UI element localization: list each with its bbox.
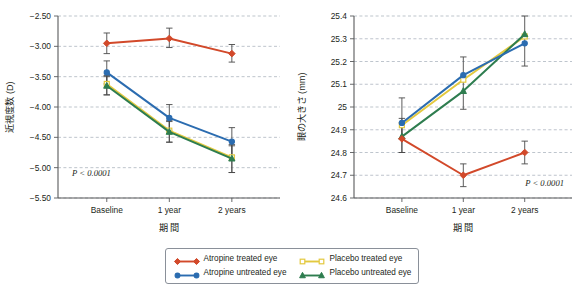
data-point-atropine_treated-legend-b [193,258,199,264]
data-point-placebo_treated-legend-a [301,259,306,264]
p-value-annotation: P < 0.0001 [524,178,564,188]
legend-item-placebo_untreated[interactable]: Placebo untreated eye [298,266,411,279]
legend-marker-triangle-icon [298,267,326,278]
y-axis-tick-label: −5.00 [30,163,52,173]
data-point-atropine_treated-2 [229,50,236,57]
legend-marker-diamond-icon [173,253,201,264]
series-atropine_treated [399,136,528,179]
legend-box: Atropine treated eyePlacebo treated eyeA… [165,248,420,284]
data-point-atropine_untreated-legend-b [194,273,199,278]
legend-item-atropine_untreated[interactable]: Atropine untreated eye [173,266,287,279]
x-axis-tick-label: 2 years [218,205,245,215]
grid-lines [350,16,572,198]
data-point-atropine_untreated-2 [229,139,234,144]
data-point-atropine_treated-0 [103,40,110,47]
y-axis-tick-label: −3.00 [30,41,52,51]
x-axis-title: 期 間 [159,223,180,233]
y-axis-tick-label: 25.1 [331,79,348,89]
y-axis-tick-label: 25 [338,102,348,112]
data-point-placebo_treated-legend-b [320,259,325,264]
error-bars [399,16,528,187]
chart-axial-length: 25.425.325.225.12524.924.824.724.6Baseli… [292,0,584,250]
p-value-annotation: P < 0.0001 [71,168,111,178]
data-point-atropine_treated-2 [521,149,528,156]
chart-panel-refractive-error: −2.50−3.00−3.50−4.00−4.50−5.00−5.50Basel… [0,0,292,250]
legend-item-placebo_treated[interactable]: Placebo treated eye [298,252,411,265]
chart-panel-axial-length: 25.425.325.225.12524.924.824.724.6Baseli… [292,0,584,250]
x-axis-tick-label: 2 years [511,205,538,215]
legend: Atropine treated eyePlacebo treated eyeA… [0,248,584,298]
legend-marker-square-icon [298,253,326,264]
legend-label: Atropine untreated eye [204,268,287,277]
chart-refractive-error: −2.50−3.00−3.50−4.00−4.50−5.00−5.50Basel… [0,0,292,250]
data-point-atropine_untreated-2 [522,41,527,46]
y-axis-title: 近視度数 (D) [4,81,15,132]
data-point-atropine_untreated-0 [104,70,109,75]
data-point-atropine_untreated-legend-a [175,273,180,278]
y-axis-tick-label: 24.8 [331,148,348,158]
data-point-atropine_untreated-1 [461,73,466,78]
y-axis-tick-label: 25.4 [331,11,348,21]
data-point-atropine_treated-1 [166,35,173,42]
y-axis-tick-label: −5.50 [30,193,52,203]
x-axis-tick-label: Baseline [386,205,418,215]
x-axis-tick-label: 1 year [452,205,475,215]
y-axis-tick-label: −3.50 [30,72,52,82]
y-axis-tick-label: 25.2 [331,57,348,67]
y-axis-tick-label: −4.50 [30,132,52,142]
legend-label: Placebo untreated eye [329,268,411,277]
y-axis-tick-label: 24.6 [331,193,348,203]
y-axis-tick-label: 24.9 [331,125,348,135]
x-axis-tick-label: 1 year [158,205,181,215]
legend-marker-circle-icon [173,267,201,278]
data-point-atropine_treated-legend-a [174,258,180,264]
y-axis-tick-label: −4.00 [30,102,52,112]
series-placebo_treated [399,34,527,128]
legend-label: Atropine treated eye [204,254,278,263]
figure-root: −2.50−3.00−3.50−4.00−4.50−5.00−5.50Basel… [0,0,584,298]
data-point-atropine_untreated-0 [399,120,404,125]
y-axis-title: 眼の大きさ (mm) [296,73,307,142]
data-point-atropine_untreated-1 [167,115,172,120]
x-axis-tick-label: Baseline [91,205,123,215]
x-axis-title: 期 間 [453,223,474,233]
y-axis-tick-label: −2.50 [30,11,52,21]
legend-label: Placebo treated eye [329,254,402,263]
y-axis-tick-label: 24.7 [331,170,348,180]
y-axis-tick-label: 25.3 [331,34,348,44]
legend-item-atropine_treated[interactable]: Atropine treated eye [173,252,287,265]
